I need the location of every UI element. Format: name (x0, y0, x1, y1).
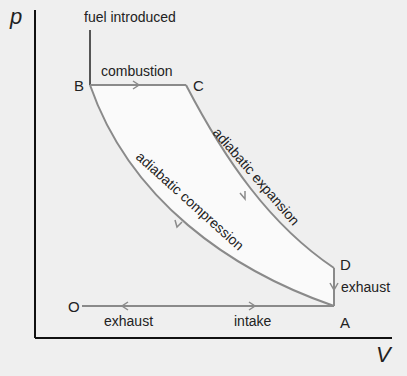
point-a-label: A (340, 314, 350, 331)
exhaust-bottom-label: exhaust (104, 313, 153, 329)
fuel-introduced-label: fuel introduced (84, 9, 176, 25)
combustion-label: combustion (101, 63, 173, 79)
y-axis-label: p (9, 4, 22, 29)
cycle-area (90, 85, 334, 306)
point-o-label: O (68, 298, 80, 315)
point-d-label: D (340, 256, 351, 273)
compression-arrow-icon (175, 220, 182, 227)
intake-label: intake (234, 313, 272, 329)
x-axis-label: V (376, 342, 393, 367)
point-c-label: C (193, 77, 204, 94)
exhaust-right-label: exhaust (341, 279, 390, 295)
point-b-label: B (74, 77, 84, 94)
pv-diagram: p V B C D A O fuel introduced combustion… (0, 0, 407, 376)
